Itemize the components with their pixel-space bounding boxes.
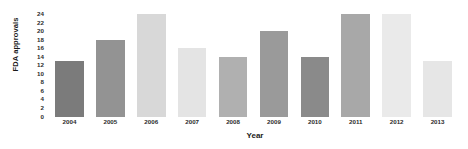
x-axis-title: Year (0, 131, 468, 140)
y-axis-tick-labels: 024681012141618202224 (26, 10, 44, 120)
y-tick-label: 12 (37, 62, 44, 68)
x-tick-label: 2012 (376, 118, 417, 125)
bar-2007[interactable] (178, 48, 207, 116)
y-tick-label: 0 (41, 114, 44, 120)
bar-2011[interactable] (341, 14, 370, 117)
y-tick-label: 14 (37, 54, 44, 60)
bar-2008[interactable] (219, 57, 248, 117)
y-tick-label: 18 (37, 37, 44, 43)
x-tick-label: 2013 (417, 118, 458, 125)
x-tick-label: 2006 (131, 118, 172, 125)
y-tick-label: 10 (37, 71, 44, 77)
y-axis-title: FDA approvals (11, 5, 20, 85)
bar-2009[interactable] (260, 31, 289, 116)
y-tick-label: 22 (37, 20, 44, 26)
bar-slot (301, 14, 330, 117)
bar-slot (260, 14, 289, 117)
y-tick-label: 6 (41, 88, 44, 94)
x-tick-label: 2010 (294, 118, 335, 125)
x-tick-label: 2008 (213, 118, 254, 125)
y-tick-label: 8 (41, 79, 44, 85)
bar-slot (382, 14, 411, 117)
y-tick-label: 2 (41, 105, 44, 111)
y-tick-label: 20 (37, 28, 44, 34)
x-tick-label: 2005 (90, 118, 131, 125)
bar-2012[interactable] (382, 14, 411, 117)
plot-area (49, 14, 458, 117)
x-tick-label: 2007 (172, 118, 213, 125)
bar-slot (137, 14, 166, 117)
y-tick-label: 24 (37, 11, 44, 17)
x-tick-label: 2011 (335, 118, 376, 125)
bar-slot (96, 14, 125, 117)
bar-chart: FDA approvals 024681012141618202224 2004… (0, 0, 468, 149)
bar-2004[interactable] (55, 61, 84, 117)
y-tick-label: 16 (37, 45, 44, 51)
bar-slot (219, 14, 248, 117)
x-tick-label: 2004 (49, 118, 90, 125)
bar-2010[interactable] (301, 57, 330, 117)
bar-2005[interactable] (96, 40, 125, 117)
bar-slot (55, 14, 84, 117)
bar-slot (341, 14, 370, 117)
bar-slot (178, 14, 207, 117)
x-axis-tick-labels: 2004200520062007200820092010201120122013 (49, 118, 458, 130)
bar-2013[interactable] (423, 61, 452, 117)
bar-slot (423, 14, 452, 117)
x-tick-label: 2009 (254, 118, 295, 125)
y-tick-label: 4 (41, 96, 44, 102)
bar-2006[interactable] (137, 14, 166, 117)
